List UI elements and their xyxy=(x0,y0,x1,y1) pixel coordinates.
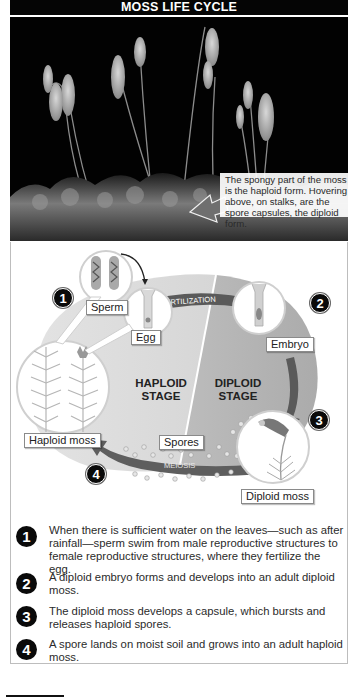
meiosis-label: MEIOSIS xyxy=(164,461,195,470)
step-number-3: 3 xyxy=(16,606,37,627)
step-number-2: 2 xyxy=(16,573,37,594)
footer-rule xyxy=(6,695,64,697)
label-embryo: Embryo xyxy=(266,337,314,352)
label-egg: Egg xyxy=(131,330,161,345)
diploid-stage-label: DIPLOID STAGE xyxy=(208,377,268,403)
step-number-1: 1 xyxy=(16,526,37,547)
label-haploid-moss: Haploid moss xyxy=(24,433,101,448)
label-spores: Spores xyxy=(159,435,204,450)
label-sperm: Sperm xyxy=(86,300,128,315)
step-list: 1 When there is sufficient water on the … xyxy=(10,514,348,664)
badge-step-2: 2 xyxy=(310,293,330,313)
figure-title: MOSS LIFE CYCLE xyxy=(10,0,348,15)
step-text-2: A diploid embryo forms and develops into… xyxy=(49,571,344,597)
haploid-stage-label: HAPLOID STAGE xyxy=(131,377,191,403)
step-text-4: A spore lands on moist soil and grows in… xyxy=(49,638,344,664)
badge-step-1: 1 xyxy=(53,288,73,308)
step-text-3: The diploid moss develops a capsule, whi… xyxy=(49,605,344,631)
step-number-4: 4 xyxy=(16,639,37,660)
badge-step-3: 3 xyxy=(309,410,329,430)
badge-step-4: 4 xyxy=(86,464,106,484)
label-diploid-moss: Diploid moss xyxy=(241,489,314,504)
moss-photo: The spongy part of the moss is the haplo… xyxy=(10,17,348,241)
step-text-1: When there is sufficient water on the le… xyxy=(49,524,344,576)
photo-caption: The spongy part of the moss is the haplo… xyxy=(220,173,348,217)
life-cycle-diagram: FERTILIZATION MEIOSIS xyxy=(10,242,348,514)
